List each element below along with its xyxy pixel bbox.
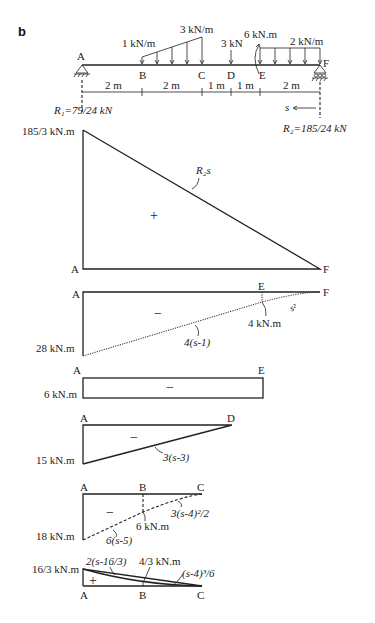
span-bc: 2 m <box>163 79 180 91</box>
diagram5-sign: − <box>106 505 114 520</box>
diagram6-curve-cubic: (s-4)³/6 <box>182 567 215 580</box>
diagram-triangular-load: 16/3 kN.m + A B C 2(s-16/3) 4/3 kN.m (s-… <box>32 555 215 601</box>
diagram6-point-value: 4/3 kN.m <box>139 555 181 567</box>
load-label-1kn: 1 kN/m <box>122 37 156 49</box>
point-label-e: E <box>259 69 266 81</box>
reaction-right: R₂=185/24 kN <box>282 122 347 134</box>
uniform-load <box>258 48 322 64</box>
diagram1-sign: + <box>150 208 158 223</box>
diagram6-start: A <box>80 589 88 601</box>
load-label-3kn-m: 3 kN/m <box>180 23 214 35</box>
diagram-uniform-load: A E F 28 kN.m − 4(s-1) 4 kN.m s² <box>36 280 329 356</box>
diagram5-curve-linear: 6(s-5) <box>106 534 133 547</box>
diagram2-start: A <box>72 288 80 300</box>
diagram2-curve-linear: 4(s-1) <box>184 336 211 349</box>
diagram2-end: F <box>323 286 329 298</box>
point-label-f: F <box>323 57 329 69</box>
diagram2-value: 28 kN.m <box>36 342 75 354</box>
diagram6-sign: + <box>89 573 97 588</box>
diagram5-start: A <box>80 481 88 493</box>
diagram-r2-moment: 185/3 kN.m + R₂s A F <box>22 125 329 275</box>
diagram4-value: 15 kN.m <box>36 454 75 466</box>
diagram3-value: 6 kN.m <box>44 388 77 400</box>
diagram2-mid: E <box>258 280 265 292</box>
point-load-arrow-icon <box>229 50 233 64</box>
span-ab: 2 m <box>105 79 122 91</box>
moment-diagrams-figure: b A B C D E F <box>0 0 375 623</box>
s-label: s <box>285 101 289 113</box>
panel-label: b <box>18 24 26 39</box>
span-de: 1 m <box>237 79 254 91</box>
diagram-point-load: A D 15 kN.m − 3(s-3) <box>36 412 235 466</box>
diagram5-mid: B <box>139 481 146 493</box>
diagram1-start: A <box>71 263 79 275</box>
diagram6-end: C <box>197 589 204 601</box>
span-ef: 2 m <box>283 79 300 91</box>
diagram5-end: C <box>197 481 204 493</box>
load-label-3kn: 3 kN <box>221 37 243 49</box>
diagram6-value: 16/3 kN.m <box>32 563 80 575</box>
diagram3-sign: − <box>166 380 174 395</box>
diagram1-value: 185/3 kN.m <box>22 125 75 137</box>
span-cd: 1 m <box>208 79 225 91</box>
point-label-c: C <box>198 69 205 81</box>
diagram1-curve: R₂s <box>195 164 211 176</box>
diagram4-curve: 3(s-3) <box>162 451 190 464</box>
load-label-2kn: 2 kN/m <box>290 35 324 47</box>
diagram5-curve-quad: 3(s-4)²/2 <box>170 507 210 520</box>
diagram3-start: A <box>73 364 81 376</box>
diagram1-end: F <box>323 263 329 275</box>
diagram5-value: 18 kN.m <box>36 530 75 542</box>
diagram4-start: A <box>80 412 88 424</box>
diagram2-point-value: 4 kN.m <box>248 317 281 329</box>
diagram-uniform-1kn: A B C 18 kN.m − 6(s-5) 6 kN.m 3(s-4)²/2 <box>36 481 210 547</box>
diagram5-point-value: 6 kN.m <box>136 520 169 532</box>
beam-diagram: A B C D E F 1 kN/m 3 kN/m 3 kN 6 kN.m <box>53 23 347 134</box>
diagram2-curve-quad: s² <box>288 302 298 314</box>
diagram3-end: E <box>258 364 265 376</box>
diagram4-end: D <box>227 412 235 424</box>
pin-support-icon <box>74 65 90 77</box>
diagram6-curve-linear: 2(s-16/3) <box>86 555 127 568</box>
diagram4-sign: − <box>130 430 138 445</box>
reaction-left: R₁=79/24 kN <box>53 104 113 116</box>
diagram-couple: A E 6 kN.m − <box>44 364 265 400</box>
load-label-moment: 6 kN.m <box>244 28 277 40</box>
diagram6-mid: B <box>139 589 146 601</box>
point-label-a: A <box>77 50 85 62</box>
point-label-b: B <box>139 69 146 81</box>
diagram2-sign: − <box>154 306 162 321</box>
point-label-d: D <box>227 69 235 81</box>
